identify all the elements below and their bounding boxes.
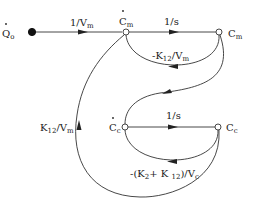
svg-text:Cm: Cm (119, 16, 134, 29)
gain-label-1-over-s-c: 1/s (166, 110, 181, 121)
edge-cc-dot-to-cc (128, 125, 215, 130)
node-qo-dot (28, 28, 35, 35)
arrow-right-icon (169, 30, 179, 35)
arrow-right-icon (78, 30, 88, 35)
node-cm (216, 29, 222, 35)
svg-text:Cc: Cc (109, 122, 121, 135)
edge-qo-to-cm-dot (34, 30, 122, 35)
label-cc: Cc (226, 122, 238, 135)
node-cc-dot (122, 124, 128, 130)
label-cc-dot: Cc (109, 117, 121, 135)
arrow-right-icon (168, 125, 178, 130)
node-cm-dot (123, 29, 129, 35)
edge-cm-dot-to-cm (129, 30, 216, 35)
gain-label-1-over-s-m: 1/s (164, 16, 179, 27)
gain-label-k12-over-vm: K12/Vm (40, 122, 74, 135)
signal-flow-diagram: Qo Cm Cm Cc Cc 1/Vm 1/s -K12/Vm 1/s -(K2… (0, 0, 253, 208)
gain-label-minus-k12-over-vm: -K12/Vm (152, 50, 189, 63)
edge-cc-to-cc-dot-feedback (125, 130, 218, 164)
arrow-up-icon (77, 120, 82, 130)
gain-label-minus-k2-plus-k12-over-vc: -(K2+ K 12)/Vc (130, 168, 199, 181)
gain-label-1-over-vm: 1/Vm (70, 17, 94, 30)
svg-text:Cm: Cm (228, 28, 243, 41)
svg-text:Cc: Cc (226, 122, 238, 135)
label-cm-dot: Cm (119, 10, 134, 29)
arrow-left-icon (162, 89, 172, 94)
label-cm: Cm (228, 28, 243, 41)
node-cc (215, 124, 221, 130)
svg-text:Qo: Qo (2, 28, 14, 41)
label-qo-dot: Qo (2, 23, 14, 41)
